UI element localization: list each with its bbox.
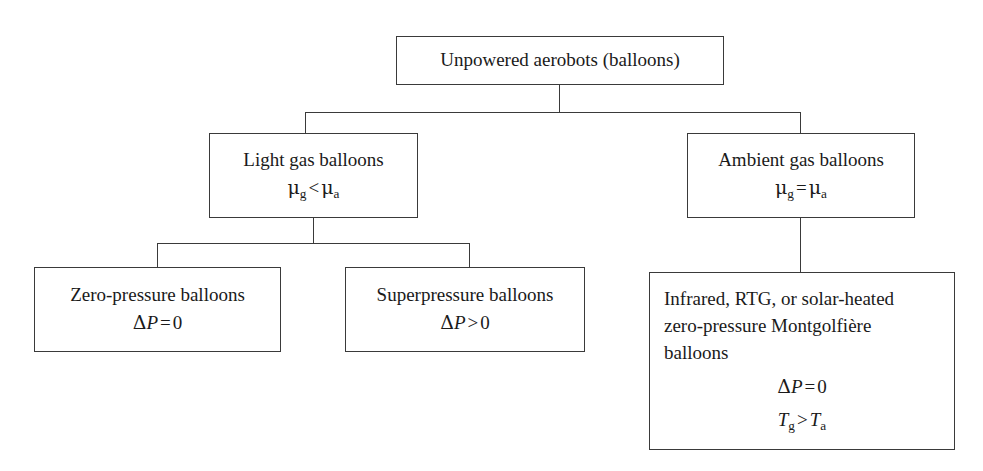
node-root[interactable]: Unpowered aerobots (balloons) [396, 36, 724, 85]
node-root-label: Unpowered aerobots (balloons) [440, 47, 680, 74]
edge-to-montgolfiere [800, 218, 801, 273]
diagram-canvas: Unpowered aerobots (balloons) Light gas … [0, 0, 983, 471]
edge-root-stem [559, 85, 560, 113]
edge-to-zero-pressure [157, 243, 158, 267]
node-superpressure-formula: ΔP>0 [440, 309, 490, 337]
node-montgolfiere-label-line3: balloons [664, 340, 954, 367]
node-montgolfiere-balloons[interactable]: Infrared, RTG, or solar-heated zero-pres… [649, 272, 955, 450]
node-superpressure-label: Superpressure balloons [377, 282, 554, 309]
node-montgolfiere-label-line2: zero-pressure Montgolfière [664, 313, 954, 340]
node-montgolfiere-formula-temperature: Tg>Ta [664, 407, 954, 436]
edge-level2-bus [157, 243, 470, 244]
node-montgolfiere-formula-pressure: ΔP=0 [664, 373, 954, 401]
node-light-gas-formula: μg<μa [288, 174, 340, 204]
node-ambient-gas-balloons[interactable]: Ambient gas balloons μg=μa [687, 133, 915, 218]
edge-to-superpressure [469, 243, 470, 267]
node-light-gas-label: Light gas balloons [243, 147, 383, 174]
node-zero-pressure-balloons[interactable]: Zero-pressure balloons ΔP=0 [34, 267, 281, 352]
node-light-gas-balloons[interactable]: Light gas balloons μg<μa [209, 133, 418, 218]
node-montgolfiere-label-line1: Infrared, RTG, or solar-heated [664, 286, 954, 313]
edge-to-ambient-gas [800, 112, 801, 134]
edge-light-gas-stem [313, 218, 314, 244]
node-ambient-gas-label: Ambient gas balloons [718, 147, 884, 174]
node-ambient-gas-formula: μg=μa [775, 174, 827, 204]
edge-to-light-gas [305, 112, 306, 134]
edge-level1-bus [305, 112, 801, 113]
node-superpressure-balloons[interactable]: Superpressure balloons ΔP>0 [345, 267, 585, 352]
node-zero-pressure-label: Zero-pressure balloons [70, 282, 245, 309]
node-zero-pressure-formula: ΔP=0 [133, 309, 183, 337]
